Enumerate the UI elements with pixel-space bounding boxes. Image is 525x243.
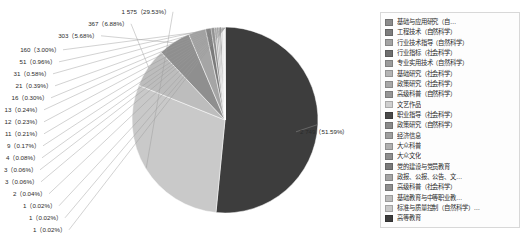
data-label: 1（0.02%） bbox=[23, 202, 56, 209]
legend-item[interactable]: 专业实用技术（自然科学） bbox=[385, 58, 516, 68]
data-label: 51（0.96%） bbox=[20, 58, 56, 65]
data-label: 12（0.23%） bbox=[5, 118, 41, 125]
legend-swatch bbox=[385, 19, 393, 26]
legend-item[interactable]: 基础与应用研究（自… bbox=[385, 17, 516, 27]
legend-label: 行业技术指导（自然科学） bbox=[397, 38, 468, 48]
legend-item[interactable]: 基础研究（社会科学） bbox=[385, 69, 516, 79]
data-label: 1（0.02%） bbox=[29, 214, 62, 221]
leader-line bbox=[131, 24, 149, 68]
legend-item[interactable]: 政策研究（社会科学） bbox=[385, 79, 516, 89]
legend-item[interactable]: 职业指导（社会科学） bbox=[385, 110, 516, 120]
legend-item[interactable]: 基础教育与中等职业教… bbox=[385, 193, 516, 203]
legend-item[interactable]: 高级科普（自然科学） bbox=[385, 89, 516, 99]
legend-label: 政策研究（社会科学） bbox=[397, 79, 456, 89]
legend-item[interactable]: 大众文化 bbox=[385, 151, 516, 161]
legend-swatch bbox=[385, 174, 393, 181]
data-label: 1（0.02%） bbox=[33, 226, 66, 233]
pie-chart-figure: 2 749（51.59%）1 575（29.53%）367（6.88%）303（… bbox=[0, 0, 525, 243]
data-label: 367（6.88%） bbox=[88, 20, 128, 27]
data-label: 31（0.58%） bbox=[14, 70, 50, 77]
legend-label: 基础教育与中等职业教… bbox=[397, 193, 462, 203]
leader-line bbox=[101, 36, 175, 43]
data-label: 4（0.08%） bbox=[6, 154, 39, 161]
legend-label: 政策研究（自然科学） bbox=[397, 120, 456, 130]
legend-item[interactable]: 行业指标（社会科学） bbox=[385, 48, 516, 58]
legend-item[interactable]: 行业技术指导（自然科学） bbox=[385, 38, 516, 48]
pie-slices-group bbox=[132, 27, 318, 213]
data-label: 303（5.68%） bbox=[58, 32, 98, 39]
legend-swatch bbox=[385, 122, 393, 129]
legend-swatch bbox=[385, 50, 393, 57]
legend-item[interactable]: 政策研究（自然科学） bbox=[385, 120, 516, 130]
legend-swatch bbox=[385, 70, 393, 77]
legend-label: 高级科普（社会科学） bbox=[397, 183, 456, 193]
data-label: 3（0.06%） bbox=[4, 166, 37, 173]
legend-label: 党的建设与党员教育 bbox=[397, 162, 450, 172]
data-label: 2 749（51.59%） bbox=[300, 128, 348, 135]
legend-swatch bbox=[385, 39, 393, 46]
legend-label: 大众科普 bbox=[397, 141, 421, 151]
legend-label: 高级科普（自然科学） bbox=[397, 89, 456, 99]
legend-swatch bbox=[385, 101, 393, 108]
legend-item[interactable]: 政报、公报、公告、文… bbox=[385, 172, 516, 182]
pie-chart-canvas: 2 749（51.59%）1 575（29.53%）367（6.88%）303（… bbox=[0, 0, 380, 243]
data-label: 160（3.00%） bbox=[20, 46, 60, 53]
data-label: 9（0.17%） bbox=[7, 142, 40, 149]
legend-label: 基础与应用研究（自… bbox=[397, 17, 456, 27]
legend-swatch bbox=[385, 132, 393, 139]
data-label: 21（0.39%） bbox=[16, 82, 52, 89]
legend-swatch bbox=[385, 163, 393, 170]
legend-item[interactable]: 工程技术（自然科学） bbox=[385, 27, 516, 37]
legend-item[interactable]: 高等教育 bbox=[385, 214, 516, 224]
legend-swatch bbox=[385, 153, 393, 160]
legend-swatch bbox=[385, 184, 393, 191]
legend-item[interactable]: 高级科普（社会科学） bbox=[385, 183, 516, 193]
legend-swatch bbox=[385, 205, 393, 212]
pie-slice[interactable] bbox=[216, 27, 318, 213]
legend-label: 专业实用技术（自然科学） bbox=[397, 58, 468, 68]
legend-label: 经济信息 bbox=[397, 131, 421, 141]
legend-item[interactable]: 党的建设与党员教育 bbox=[385, 162, 516, 172]
legend-item[interactable]: 文艺作品 bbox=[385, 100, 516, 110]
legend-swatch bbox=[385, 81, 393, 88]
data-label: 11（0.21%） bbox=[5, 130, 41, 137]
legend-swatch bbox=[385, 112, 393, 119]
legend-label: 高等教育 bbox=[397, 214, 421, 224]
legend-label: 大众文化 bbox=[397, 151, 421, 161]
data-label: 1 575（29.53%） bbox=[122, 8, 170, 15]
legend-item[interactable]: 大众科普 bbox=[385, 141, 516, 151]
legend-label: 文艺作品 bbox=[397, 100, 421, 110]
data-label: 16（0.30%） bbox=[12, 94, 48, 101]
legend-label: 标准与质量控制（自然科学）… bbox=[397, 203, 480, 213]
legend-item[interactable]: 经济信息 bbox=[385, 131, 516, 141]
data-label: 13（0.24%） bbox=[5, 106, 41, 113]
chart-legend: 基础与应用研究（自…工程技术（自然科学）行业技术指导（自然科学）行业指标（社会科… bbox=[380, 12, 520, 228]
legend-swatch bbox=[385, 143, 393, 150]
legend-label: 基础研究（社会科学） bbox=[397, 69, 456, 79]
data-label: 2（0.04%） bbox=[13, 190, 46, 197]
legend-swatch bbox=[385, 29, 393, 36]
legend-label: 行业指标（社会科学） bbox=[397, 48, 456, 58]
legend-swatch bbox=[385, 195, 393, 202]
legend-label: 政报、公报、公告、文… bbox=[397, 172, 462, 182]
legend-label: 工程技术（自然科学） bbox=[397, 27, 456, 37]
legend-item[interactable]: 标准与质量控制（自然科学）… bbox=[385, 203, 516, 213]
legend-swatch bbox=[385, 91, 393, 98]
data-label: 3（0.06%） bbox=[5, 178, 38, 185]
legend-swatch bbox=[385, 215, 393, 222]
legend-label: 职业指导（社会科学） bbox=[397, 110, 456, 120]
legend-swatch bbox=[385, 60, 393, 67]
